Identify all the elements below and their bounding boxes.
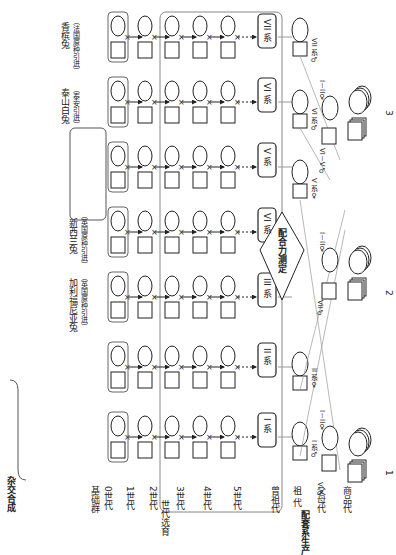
label-gen0: 0世代 [103, 486, 113, 510]
stage-selective-breeding: 世代选育 [160, 500, 170, 536]
line-iii-label: III 系 [262, 278, 272, 298]
label-great-grandparent: 曾祖代 [270, 486, 280, 513]
line-i-label: I 系 [262, 418, 272, 433]
scheme1-parent-male: VI♂ [316, 482, 324, 497]
label-gen5: 5世代 [232, 486, 242, 510]
scheme1-grand-male: I 系♂ [310, 440, 318, 459]
scheme2-number: 2 [384, 290, 394, 296]
label-commercial: 商品代 [342, 486, 352, 513]
label-gen2: 2世代 [148, 486, 158, 510]
source-line3-name: 加利福尼亚兔 [68, 278, 78, 332]
line-ii-label: II 系 [262, 348, 272, 365]
combining-ability-label: 配合力测定 [277, 228, 287, 273]
source-line4-origin: （英国原种引进） [80, 212, 88, 268]
scheme1-number: 1 [384, 470, 394, 476]
stage-production: 配套系生产 [300, 510, 310, 555]
scheme3-grand-male-vi: VI 系♂ [310, 108, 318, 132]
scheme1-parent-female: I－II♀ [318, 410, 326, 431]
line-vi2-label: VI 系 [262, 83, 272, 104]
source-line6-name: 泰山白兔 [60, 88, 70, 124]
scheme3-grand-male-vii: VII 系♂ [310, 38, 318, 64]
label-grandparent: 祖 代 [292, 486, 302, 507]
line-vii-label: VII 系 [262, 19, 272, 42]
line-vi-label: VI 系 [262, 213, 272, 234]
scheme3-parent-male: VI－V♂ [318, 148, 326, 175]
line-v-label: V 系 [262, 148, 272, 166]
label-gen4: 4世代 [202, 486, 212, 510]
source-line6-origin: （泰安引进） [72, 86, 80, 128]
source-line3-origin: （英国原种引进） [80, 274, 88, 330]
scheme1-grand-female: II 系♀ [310, 368, 318, 389]
scheme3-parent-female: I－II♀ [318, 80, 326, 101]
label-gen3: 3世代 [175, 486, 185, 510]
scheme2-parent-female: I－II♀ [318, 232, 326, 253]
scheme3-number: 3 [384, 110, 394, 116]
source-line4-name: 新西兰兔 [68, 218, 78, 254]
stage-hybrid-synthesis: 杂交合成 [6, 476, 16, 512]
label-base-group: 基础群 [90, 486, 100, 513]
scheme2-parent-male: VII♂ [316, 300, 324, 317]
source-line7-origin: （法国原种引进） [72, 18, 80, 74]
scheme3-grand-female-v: V 系♀ [310, 178, 318, 200]
source-line7-name: 香槟兔 [60, 22, 70, 49]
label-gen1: 1世代 [125, 486, 135, 510]
